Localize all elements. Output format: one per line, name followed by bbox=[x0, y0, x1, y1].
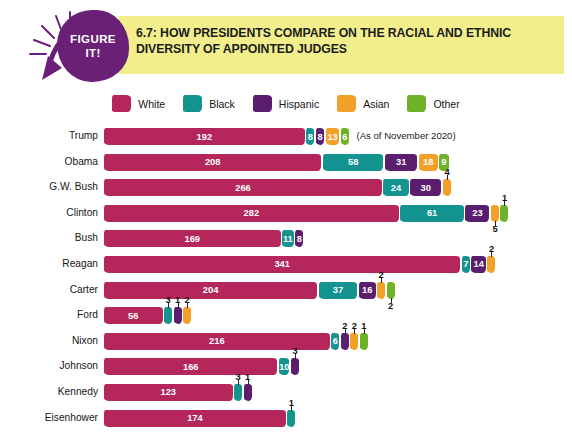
bar-segment-hispanic[interactable]: 30 bbox=[410, 179, 441, 196]
row-label-ford: Ford bbox=[0, 309, 98, 320]
bar-segment-hispanic[interactable]: 8 bbox=[295, 230, 303, 247]
bar-segment-asian[interactable]: 4 bbox=[443, 179, 451, 196]
bar-stack: 19288136 bbox=[104, 128, 350, 145]
bar-segment-white[interactable]: 166 bbox=[104, 358, 277, 375]
segment-value: 8 bbox=[297, 234, 302, 244]
bar-segment-white[interactable]: 56 bbox=[104, 307, 163, 324]
bar-segment-black[interactable]: 6 bbox=[331, 333, 339, 350]
legend-label: Other bbox=[433, 98, 459, 110]
segment-value: 14 bbox=[473, 259, 483, 269]
bar-segment-black[interactable]: 3 bbox=[234, 384, 242, 401]
chart-row: Carter204371622 bbox=[0, 280, 572, 306]
legend-swatch-white bbox=[112, 95, 131, 112]
row-label-eisenhower: Eisenhower bbox=[0, 412, 98, 423]
bar-segment-white[interactable]: 204 bbox=[104, 282, 317, 299]
badge-line-1: FIGURE bbox=[70, 32, 116, 46]
chart-row: Clinton282612351 bbox=[0, 203, 572, 229]
bar-segment-black[interactable]: 7 bbox=[462, 256, 470, 273]
bar-segment-white[interactable]: 123 bbox=[104, 384, 233, 401]
bar-segment-asian[interactable]: 18 bbox=[419, 154, 438, 171]
bar-segment-white[interactable]: 192 bbox=[104, 128, 305, 145]
callout-leader-line bbox=[495, 221, 496, 226]
callout-leader-line bbox=[248, 380, 249, 385]
bar-segment-black[interactable]: 24 bbox=[383, 179, 408, 196]
bar-segment-white[interactable]: 169 bbox=[104, 230, 281, 247]
figure-title: 6.7: HOW PRESIDENTS COMPARE ON THE RACIA… bbox=[136, 26, 556, 57]
bar-segment-white[interactable]: 174 bbox=[104, 410, 286, 427]
bar-segment-asian[interactable]: 13 bbox=[326, 128, 340, 145]
bar-segment-hispanic[interactable]: 1 bbox=[174, 307, 182, 324]
bar-segment-hispanic[interactable]: 2 bbox=[341, 333, 349, 350]
bar-segment-black[interactable]: 8 bbox=[306, 128, 314, 145]
bar-segment-asian[interactable]: 2 bbox=[183, 307, 191, 324]
segment-value: 266 bbox=[235, 183, 251, 193]
bar-stack: 2166221 bbox=[104, 333, 369, 350]
bar-stack: 282612351 bbox=[104, 205, 510, 222]
callout-leader-line bbox=[187, 303, 188, 308]
badge-line-2: IT! bbox=[85, 46, 100, 60]
segment-value: 56 bbox=[128, 311, 138, 321]
bar-segment-hispanic[interactable]: 23 bbox=[465, 205, 489, 222]
bar-segment-black[interactable]: 11 bbox=[282, 230, 293, 247]
bar-segment-black[interactable]: 1 bbox=[287, 410, 295, 427]
bar-segment-white[interactable]: 266 bbox=[104, 179, 382, 196]
bar-segment-hispanic[interactable]: 14 bbox=[471, 256, 486, 273]
bar-segment-hispanic[interactable]: 1 bbox=[244, 384, 252, 401]
callout-leader-line bbox=[345, 329, 346, 334]
legend-item-other: Other bbox=[407, 95, 459, 112]
bar-segment-other[interactable]: 6 bbox=[341, 128, 349, 145]
chart-row: Obama2085831189 bbox=[0, 152, 572, 178]
callout-leader-line bbox=[178, 303, 179, 308]
callout-leader-line bbox=[447, 175, 448, 180]
bar-segment-other[interactable]: 1 bbox=[360, 333, 368, 350]
segment-value: 31 bbox=[396, 157, 406, 167]
bar-stack: 12331 bbox=[104, 384, 253, 401]
bar-segment-other[interactable]: 2 bbox=[387, 282, 395, 299]
segment-value: 341 bbox=[274, 259, 290, 269]
callout-leader-line bbox=[391, 298, 392, 303]
segment-value: 11 bbox=[283, 234, 293, 244]
bar-segment-white[interactable]: 282 bbox=[104, 205, 399, 222]
row-label-johnson: Johnson bbox=[0, 360, 98, 371]
figure-it-badge: FIGURE IT! bbox=[57, 10, 129, 82]
row-label-carter: Carter bbox=[0, 284, 98, 295]
bar-segment-black[interactable]: 10 bbox=[279, 358, 289, 375]
bar-stack: 2085831189 bbox=[104, 154, 450, 171]
segment-value: 10 bbox=[279, 362, 289, 372]
bar-stack: 3417142 bbox=[104, 256, 497, 273]
row-label-reagan: Reagan bbox=[0, 258, 98, 269]
bar-stack: 56312 bbox=[104, 307, 193, 324]
bar-segment-black[interactable]: 61 bbox=[400, 205, 464, 222]
legend-label: Black bbox=[209, 98, 235, 110]
segment-value: 282 bbox=[244, 208, 260, 218]
bar-segment-asian[interactable]: 2 bbox=[487, 256, 495, 273]
segment-value: 123 bbox=[161, 387, 177, 397]
bar-segment-hispanic[interactable]: 8 bbox=[316, 128, 324, 145]
chart-row: Ford56312 bbox=[0, 305, 572, 331]
segment-value: 8 bbox=[318, 132, 323, 142]
legend-item-hispanic: Hispanic bbox=[253, 95, 319, 112]
bar-segment-black[interactable]: 3 bbox=[164, 307, 172, 324]
bar-stack: 26624304 bbox=[104, 179, 452, 196]
bar-segment-hispanic[interactable]: 3 bbox=[291, 358, 299, 375]
bar-segment-hispanic[interactable]: 31 bbox=[385, 154, 417, 171]
legend-swatch-hispanic bbox=[253, 95, 272, 112]
bar-segment-hispanic[interactable]: 16 bbox=[359, 282, 376, 299]
row-label-nixon: Nixon bbox=[0, 335, 98, 346]
segment-value: 204 bbox=[203, 285, 219, 295]
bar-stack: 1741 bbox=[104, 410, 297, 427]
bar-segment-white[interactable]: 208 bbox=[104, 154, 321, 171]
legend-swatch-other bbox=[407, 95, 426, 112]
callout-leader-line bbox=[291, 406, 292, 411]
segment-value: 6 bbox=[342, 132, 347, 142]
bar-segment-asian[interactable]: 2 bbox=[350, 333, 358, 350]
bar-segment-other[interactable]: 1 bbox=[500, 205, 508, 222]
bar-segment-black[interactable]: 37 bbox=[319, 282, 358, 299]
bar-segment-white[interactable]: 341 bbox=[104, 256, 460, 273]
bar-segment-asian[interactable]: 5 bbox=[491, 205, 499, 222]
bar-segment-black[interactable]: 58 bbox=[323, 154, 384, 171]
segment-value: 13 bbox=[327, 132, 337, 142]
chart-annotation: (As of November 2020) bbox=[356, 130, 455, 141]
bar-segment-asian[interactable]: 2 bbox=[377, 282, 385, 299]
row-label-bush: Bush bbox=[0, 232, 98, 243]
